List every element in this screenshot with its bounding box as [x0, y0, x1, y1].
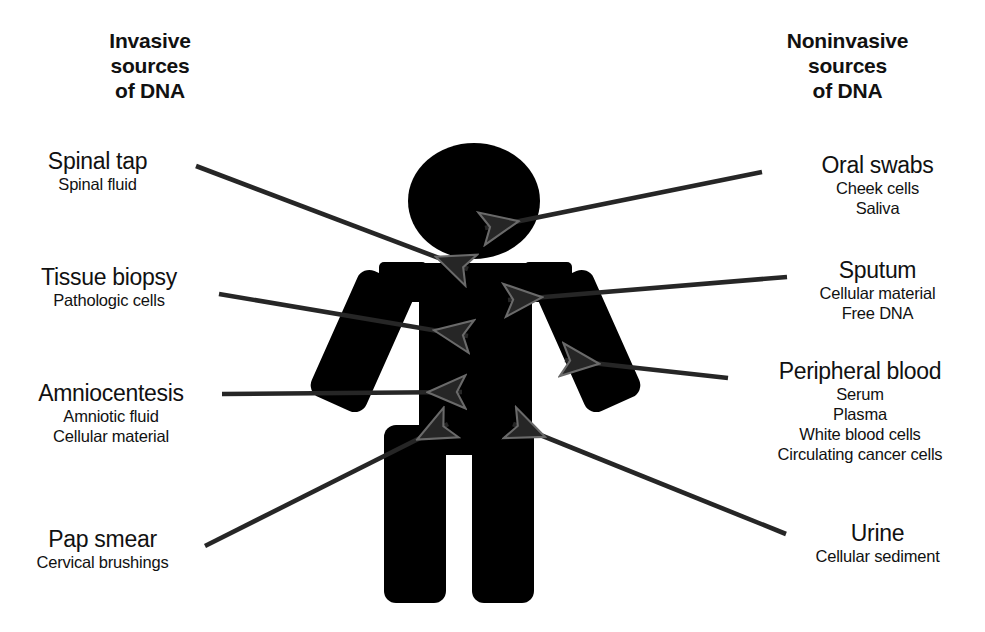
label-detail-cellular-material-amnio: Cellular material [0, 426, 222, 446]
label-detail-cervical-brushings: Cervical brushings [0, 552, 205, 572]
column-heading-invasive: Invasive sources of DNA [40, 28, 260, 103]
label-amniocentesis: Amniocentesis Amniotic fluid Cellular ma… [0, 380, 222, 446]
label-detail-spinal-fluid: Spinal fluid [0, 174, 195, 194]
label-title-spinal-tap: Spinal tap [0, 148, 195, 174]
label-detail-cellular-material-sputum: Cellular material [770, 283, 985, 303]
label-detail-saliva: Saliva [770, 198, 985, 218]
label-sputum: Sputum Cellular material Free DNA [770, 257, 985, 323]
invasive-heading-line2: sources [40, 53, 260, 78]
noninvasive-heading-line3: of DNA [735, 78, 960, 103]
label-title-peripheral-blood: Peripheral blood [735, 358, 985, 384]
invasive-heading-line3: of DNA [40, 78, 260, 103]
human-body-silhouette [307, 143, 645, 603]
label-detail-amniotic-fluid: Amniotic fluid [0, 406, 222, 426]
leader-line-amniocentesis [222, 392, 462, 394]
noninvasive-heading-line1: Noninvasive [735, 28, 960, 53]
label-title-sputum: Sputum [770, 257, 985, 283]
invasive-heading-line1: Invasive [40, 28, 260, 53]
label-detail-plasma: Plasma [735, 404, 985, 424]
label-detail-circulating-cancer-cells: Circulating cancer cells [735, 444, 985, 464]
label-detail-free-dna: Free DNA [770, 303, 985, 323]
label-detail-white-blood-cells: White blood cells [735, 424, 985, 444]
label-oral-swabs: Oral swabs Cheek cells Saliva [770, 152, 985, 218]
label-title-amniocentesis: Amniocentesis [0, 380, 222, 406]
body-part-head [408, 143, 540, 259]
noninvasive-heading-line2: sources [735, 53, 960, 78]
label-title-pap-smear: Pap smear [0, 526, 205, 552]
label-detail-cheek-cells: Cheek cells [770, 178, 985, 198]
label-spinal-tap: Spinal tap Spinal fluid [0, 148, 195, 194]
label-pap-smear: Pap smear Cervical brushings [0, 526, 205, 572]
diagram-canvas: Invasive sources of DNA Noninvasive sour… [0, 0, 985, 632]
label-peripheral-blood: Peripheral blood Serum Plasma White bloo… [735, 358, 985, 464]
label-title-oral-swabs: Oral swabs [770, 152, 985, 178]
label-detail-cellular-sediment: Cellular sediment [770, 546, 985, 566]
label-detail-pathologic-cells: Pathologic cells [0, 290, 218, 310]
column-heading-noninvasive: Noninvasive sources of DNA [735, 28, 960, 103]
label-detail-serum: Serum [735, 384, 985, 404]
label-title-tissue-biopsy: Tissue biopsy [0, 264, 218, 290]
label-tissue-biopsy: Tissue biopsy Pathologic cells [0, 264, 218, 310]
label-urine: Urine Cellular sediment [770, 520, 985, 566]
label-title-urine: Urine [770, 520, 985, 546]
body-part-right-leg [472, 425, 534, 603]
